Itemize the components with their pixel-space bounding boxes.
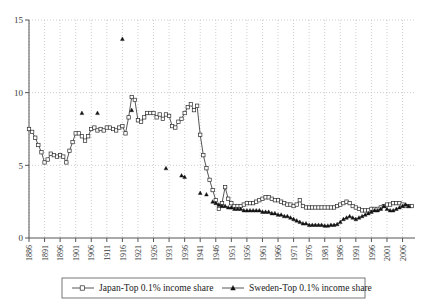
data-point-marker: [211, 188, 214, 191]
data-point-marker: [86, 135, 89, 138]
series-polyline: [29, 97, 412, 210]
data-point-marker: [410, 204, 413, 207]
data-point-marker: [130, 108, 134, 112]
x-tick-label: 1996: [368, 245, 377, 261]
data-point-marker: [205, 192, 209, 196]
data-point-marker: [71, 140, 74, 143]
x-tick-label: 1941: [196, 245, 205, 261]
x-tick-label: 1961: [259, 245, 268, 261]
legend-item-label: Japan-Top 0.1% income share: [99, 283, 213, 293]
data-point-marker: [121, 124, 124, 127]
x-axis-ticks: 1886189118961901190619111916192119261931…: [25, 238, 408, 261]
x-tick-label: 1936: [181, 245, 190, 261]
x-tick-label: 1946: [212, 245, 221, 261]
data-point-marker: [80, 111, 84, 115]
data-point-marker: [227, 197, 230, 200]
x-tick-label: 2001: [383, 245, 392, 261]
x-tick-label: 2006: [399, 245, 408, 261]
data-point-marker: [62, 155, 65, 158]
data-point-marker: [164, 166, 168, 170]
x-tick-label: 1951: [228, 245, 237, 261]
data-point-marker: [183, 111, 186, 114]
data-point-marker: [80, 135, 83, 138]
data-point-marker: [30, 130, 33, 133]
y-tick-label: 10: [14, 88, 24, 98]
data-point-marker: [68, 149, 71, 152]
x-tick-label: 1931: [165, 245, 174, 261]
legend-item-label: Sweden-Top 0.1% income share: [249, 283, 372, 293]
y-tick-label: 0: [19, 233, 24, 243]
x-tick-label: 1896: [56, 245, 65, 261]
data-point-marker: [208, 178, 211, 181]
data-point-marker: [124, 132, 127, 135]
x-tick-label: 1906: [87, 245, 96, 261]
chart-container: 051015 188618911896190119061911191619211…: [0, 0, 427, 306]
data-point-marker: [83, 139, 86, 142]
data-point-marker: [142, 116, 145, 119]
data-point-marker: [192, 108, 195, 111]
y-tick-label: 5: [19, 161, 24, 171]
x-tick-label: 1886: [25, 245, 34, 261]
x-tick-label: 1891: [41, 245, 50, 261]
data-point-marker: [96, 111, 100, 115]
x-tick-label: 1916: [119, 245, 128, 261]
data-point-marker: [120, 37, 124, 41]
x-tick-label: 1976: [305, 245, 314, 261]
data-point-marker: [348, 214, 352, 218]
x-tick-label: 1986: [336, 245, 345, 261]
x-tick-label: 1971: [290, 245, 299, 261]
y-axis-ticks: 051015: [14, 15, 29, 243]
series-sweden: [80, 37, 411, 227]
x-tick-label: 1956: [243, 245, 252, 261]
data-point-marker: [167, 114, 170, 117]
data-point-marker: [158, 113, 161, 116]
data-point-marker: [205, 167, 208, 170]
data-point-marker: [174, 126, 177, 129]
data-point-marker: [40, 151, 43, 154]
y-tick-label: 15: [14, 15, 24, 25]
x-tick-label: 1911: [103, 245, 112, 261]
data-point-marker: [127, 116, 130, 119]
data-point-marker: [189, 103, 192, 106]
data-point-marker: [34, 136, 37, 139]
data-point-marker: [295, 203, 298, 206]
legend-square-icon: [80, 286, 84, 290]
x-tick-label: 1901: [72, 245, 81, 261]
data-point-marker: [152, 111, 155, 114]
x-tick-label: 1926: [150, 245, 159, 261]
data-point-marker: [298, 199, 301, 202]
data-point-marker: [198, 191, 202, 195]
data-point-marker: [133, 98, 136, 101]
data-point-marker: [65, 161, 68, 164]
data-point-marker: [37, 143, 40, 146]
x-tick-label: 1981: [321, 245, 330, 261]
x-tick-label: 1966: [274, 245, 283, 261]
data-point-marker: [223, 185, 226, 188]
data-point-marker: [161, 117, 164, 120]
income-share-line-chart: 051015 188618911896190119061911191619211…: [0, 0, 427, 306]
data-point-marker: [139, 120, 142, 123]
data-point-marker: [195, 104, 198, 107]
data-point-marker: [180, 117, 183, 120]
data-point-marker: [180, 174, 184, 178]
data-point-marker: [46, 158, 49, 161]
x-tick-label: 1991: [352, 245, 361, 261]
chart-legend: Japan-Top 0.1% income shareSweden-Top 0.…: [62, 278, 372, 298]
data-point-marker: [202, 153, 205, 156]
data-point-marker: [335, 222, 339, 226]
data-point-marker: [199, 133, 202, 136]
x-tick-label: 1921: [134, 245, 143, 261]
